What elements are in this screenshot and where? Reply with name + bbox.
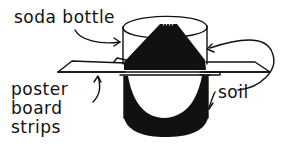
label-soil: soil [218, 84, 249, 101]
soda-arrow [75, 30, 120, 43]
poster-arrowhead [94, 76, 101, 82]
poster-arrow [93, 77, 100, 102]
lower-soil [124, 76, 208, 137]
poster-strip-left-top [58, 61, 125, 72]
poster-strip-right [206, 62, 270, 72]
poster-strip-left-fold [114, 58, 126, 62]
label-poster-board-strips: poster board strips [11, 80, 68, 137]
label-soda-bottle: soda bottle [14, 9, 115, 26]
upper-soil [124, 24, 206, 70]
